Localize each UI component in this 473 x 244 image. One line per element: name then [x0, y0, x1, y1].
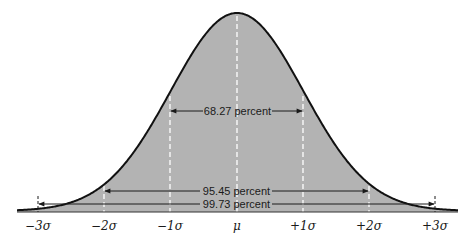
axis-label-plus-1-sigma: +1σ — [290, 219, 317, 233]
normal-distribution-diagram: 68.27 percent 95.45 percent 99.73 percen… — [0, 0, 473, 244]
label-99-percent: 99.73 percent — [203, 198, 270, 210]
axis-label-plus-2-sigma: +2σ — [356, 219, 383, 233]
axis-label-minus-3-sigma: −3σ — [25, 219, 52, 233]
axis-label-minus-1-sigma: −1σ — [157, 219, 184, 233]
label-68-percent: 68.27 percent — [204, 105, 271, 117]
axis-label-plus-3-sigma: +3σ — [422, 219, 449, 233]
axis-label-minus-2-sigma: −2σ — [91, 219, 118, 233]
axis-label-mean: μ — [233, 219, 241, 233]
label-95-percent: 95.45 percent — [203, 185, 270, 197]
sigma-axis-labels: −3σ −2σ −1σ μ +1σ +2σ +3σ — [25, 219, 449, 233]
